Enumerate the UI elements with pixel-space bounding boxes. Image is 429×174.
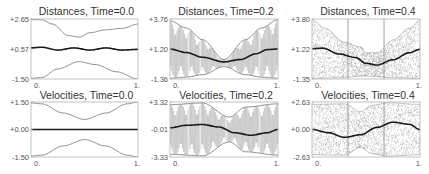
y-tick-label: +1.50 [10, 98, 29, 107]
y-tick-label: +2.65 [10, 15, 29, 24]
x-tick-label: 0. [315, 159, 321, 168]
chart-panel-5: Velocities, Time=0.2+3.32-0.01-3.330.1. [149, 89, 280, 168]
chart-panel-4: Velocities, Time=0.0+1.50+0.00-1.500.1. [10, 89, 140, 168]
chart-panel-3: Distances, Time=0.4+3.80+1.22-1.350.1. [291, 5, 422, 90]
y-tick-label: +3.76 [149, 15, 168, 24]
x-tick-label: 1. [274, 81, 280, 90]
y-tick-label: +2.63 [291, 98, 310, 107]
upper-envelope-line [31, 20, 138, 37]
lower-envelope-line [31, 140, 138, 157]
plot-area [312, 102, 421, 157]
chart-title: Distances, Time=0.0 [39, 5, 135, 17]
lower-envelope-line [312, 76, 420, 78]
x-tick-label: 1. [416, 81, 422, 90]
plot-area [31, 102, 138, 157]
y-tick-label: -2.63 [293, 153, 310, 162]
y-tick-label: +3.32 [149, 98, 168, 107]
x-tick-label: 1. [134, 159, 140, 168]
plot-area [170, 19, 278, 79]
y-tick-label: +1.22 [291, 45, 310, 54]
chart-title: Distances, Time=0.2 [178, 5, 274, 17]
plot-area [312, 19, 421, 79]
y-tick-label: -1.35 [293, 75, 310, 84]
x-tick-label: 1. [274, 159, 280, 168]
y-tick-label: +0.00 [10, 125, 29, 134]
upper-envelope-line [31, 102, 138, 119]
scatter-points [312, 104, 421, 156]
lower-envelope-line [31, 62, 138, 79]
chart-panel-2: Distances, Time=0.2+3.76+1.20-1.360.1. [149, 5, 280, 90]
x-tick-label: 0. [173, 159, 179, 168]
x-tick-label: 0. [34, 159, 40, 168]
mean-line [170, 125, 278, 136]
oscillation-trace [170, 20, 278, 78]
y-tick-label: -1.50 [12, 75, 29, 84]
chart-title: Velocities, Time=0.0 [40, 89, 134, 101]
y-tick-label: +3.80 [291, 15, 310, 24]
plot-area [170, 102, 278, 157]
x-tick-label: 1. [416, 159, 422, 168]
upper-envelope-line [170, 20, 278, 60]
chart-panel-6: Velocities, Time=0.4+2.63+0.00-2.630.1. [291, 89, 422, 168]
plot-area [31, 20, 138, 79]
chart-title: Velocities, Time=0.4 [321, 89, 415, 101]
upper-envelope-line [170, 103, 278, 117]
y-tick-label: -0.01 [151, 125, 168, 134]
y-tick-label: +1.20 [149, 45, 168, 54]
chart-panel-1: Distances, Time=0.0+2.65+0.57-1.500.1. [10, 5, 140, 90]
y-tick-label: -3.33 [151, 153, 168, 162]
y-tick-label: +0.57 [10, 45, 29, 54]
oscillation-trace [170, 103, 278, 156]
x-tick-label: 1. [134, 81, 140, 90]
figure-grid: Distances, Time=0.0+2.65+0.57-1.500.1.Di… [0, 0, 429, 174]
mean-line [31, 47, 138, 50]
y-tick-label: -1.50 [12, 153, 29, 162]
chart-title: Velocities, Time=0.2 [179, 89, 273, 101]
y-tick-label: +0.00 [291, 125, 310, 134]
lower-envelope-line [312, 147, 420, 156]
chart-title: Distances, Time=0.4 [320, 5, 416, 17]
y-tick-label: -1.36 [151, 75, 168, 84]
mean-line [312, 48, 420, 65]
